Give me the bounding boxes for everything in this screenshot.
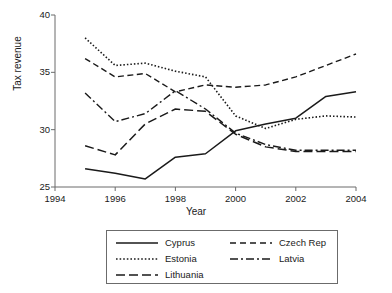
legend-label-cyprus: Cyprus: [165, 238, 195, 248]
chart-figure: Tax revenue Year 25303540 19941996199820…: [0, 0, 392, 293]
legend-item-czech-rep[interactable]: Czech Rep: [229, 236, 326, 250]
legend-grid: Cyprus Czech Rep Estonia Latvia: [107, 231, 337, 283]
x-tick-label: 1998: [161, 193, 189, 204]
y-tick-label: 35: [32, 66, 50, 77]
series-line-lithuania: [85, 109, 356, 155]
legend-label-czech-rep: Czech Rep: [279, 238, 326, 248]
legend-swatch-dashdot: [229, 254, 273, 264]
x-tick-label: 1994: [41, 193, 69, 204]
axis-lines: [55, 15, 356, 187]
y-axis-ticks: [51, 15, 55, 187]
legend-label-latvia: Latvia: [279, 254, 304, 264]
x-axis-label: Year: [0, 206, 392, 217]
legend-label-lithuania: Lithuania: [165, 270, 204, 280]
legend-item-estonia[interactable]: Estonia: [115, 252, 197, 266]
chart-legend: Cyprus Czech Rep Estonia Latvia: [106, 230, 338, 284]
y-axis-label: Tax revenue: [12, 19, 23, 109]
legend-swatch-dotted: [115, 254, 159, 264]
legend-item-cyprus[interactable]: Cyprus: [115, 236, 195, 250]
series-line-estonia: [85, 38, 356, 129]
legend-item-lithuania[interactable]: Lithuania: [115, 268, 204, 282]
y-tick-label: 40: [32, 9, 50, 20]
data-series-group: [85, 38, 356, 179]
x-tick-label: 2004: [342, 193, 370, 204]
series-line-cyprus: [85, 92, 356, 179]
legend-swatch-solid: [115, 238, 159, 248]
y-tick-label: 30: [32, 124, 50, 135]
y-tick-label: 25: [32, 181, 50, 192]
x-tick-label: 2002: [282, 193, 310, 204]
x-tick-label: 1996: [101, 193, 129, 204]
legend-swatch-longdash: [115, 270, 159, 280]
series-line-czech-rep: [85, 54, 356, 92]
x-tick-label: 2000: [222, 193, 250, 204]
x-axis-ticks: [55, 187, 356, 191]
legend-item-latvia[interactable]: Latvia: [229, 252, 304, 266]
legend-swatch-dashed: [229, 238, 273, 248]
legend-label-estonia: Estonia: [165, 254, 197, 264]
